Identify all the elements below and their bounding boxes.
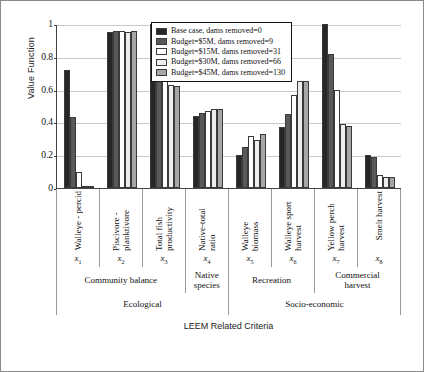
category-cell: Socio-economic (228, 293, 401, 315)
legend-label: Budget=$45M, dams removed=130 (171, 69, 285, 77)
criterion-symbol: x5 (247, 253, 254, 265)
bar (131, 31, 137, 188)
figure-panel: Value Function 00.20.40.60.81 Base case,… (0, 0, 424, 372)
bar (346, 126, 352, 188)
bar-group (315, 25, 358, 188)
legend-swatch (156, 69, 167, 76)
bar-group (57, 25, 100, 188)
legend-item: Budget=$15M, dams removed=31 (156, 47, 285, 57)
criterion-label: Yellow perch harvest (326, 191, 346, 251)
symbol-cell: x1 (56, 251, 99, 267)
legend-label: Base case, dams removed=0 (171, 27, 262, 35)
legend-label: Budget=$15M, dams removed=31 (171, 48, 281, 56)
criterion-label: Walleye biomass (240, 191, 260, 251)
symbol-cell: x6 (271, 251, 314, 267)
bar (88, 186, 94, 188)
bar (303, 81, 309, 188)
criterion-label: Total fish productivity (154, 191, 174, 251)
criterion-cell: Smelt harvest (357, 189, 401, 251)
criterion-cell: Yellow perch harvest (314, 189, 357, 251)
legend-swatch (156, 48, 167, 55)
bar (389, 177, 395, 188)
legend-label: Budget=$30M, dams removed=66 (171, 58, 281, 66)
x-axis-title: LEEM Related Criteria (184, 321, 274, 331)
criterion-label-row: Walleye - percidPiscivore - planktivoreT… (56, 189, 401, 251)
criterion-symbol: x6 (290, 253, 297, 265)
criterion-label: Smelt harvest (374, 191, 384, 240)
legend-swatch (156, 28, 167, 35)
bar-group (358, 25, 401, 188)
subcategory-cell: Recreation (228, 267, 314, 293)
axis-title-cell: LEEM Related Criteria (56, 315, 401, 337)
category-label: Ecological (123, 299, 161, 309)
criterion-cell: Walleye - percid (56, 189, 99, 251)
criterion-symbol: x8 (376, 253, 383, 265)
symbol-cell: x4 (185, 251, 228, 267)
symbol-cell: x2 (99, 251, 142, 267)
criterion-symbol: x7 (333, 253, 340, 265)
x-axis-band: Walleye - percidPiscivore - planktivoreT… (56, 189, 401, 337)
symbol-cell: x8 (357, 251, 401, 267)
criterion-symbol-row: x1x2x3x4x5x6x7x8 (56, 251, 401, 267)
y-tick-label: 0.2 (41, 151, 53, 161)
criterion-cell: Native-total ratio (185, 189, 228, 251)
criterion-symbol: x1 (75, 253, 82, 265)
subcategory-row: Community balanceNative speciesRecreatio… (56, 267, 401, 293)
criterion-label: Native-total ratio (197, 191, 217, 251)
y-tick-label: 0 (48, 184, 53, 194)
legend-item: Base case, dams removed=0 (156, 26, 285, 36)
symbol-cell: x5 (228, 251, 271, 267)
subcategory-label: Native species (194, 270, 220, 290)
criterion-label: Piscivore - planktivore (111, 191, 131, 251)
legend-item: Budget=$45M, dams removed=130 (156, 68, 285, 78)
y-axis-title: Value Function (26, 0, 36, 138)
legend-item: Budget=$5M, dams removed=9 (156, 36, 285, 46)
subcategory-cell: Commercial harvest (314, 267, 401, 293)
criterion-symbol: x3 (161, 253, 168, 265)
criterion-cell: Piscivore - planktivore (99, 189, 142, 251)
bar (260, 134, 266, 188)
criterion-symbol: x4 (204, 253, 211, 265)
criterion-label: Walleye sport harvest (283, 191, 303, 251)
y-tick-label: 1 (48, 20, 53, 30)
criterion-cell: Total fish productivity (142, 189, 185, 251)
legend-item: Budget=$30M, dams removed=66 (156, 57, 285, 67)
symbol-cell: x7 (314, 251, 357, 267)
category-label: Socio-economic (285, 299, 343, 309)
bar (174, 86, 180, 188)
criterion-cell: Walleye biomass (228, 189, 271, 251)
category-row: EcologicalSocio-economic (56, 293, 401, 315)
subcategory-label: Community balance (84, 275, 157, 285)
category-cell: Ecological (56, 293, 228, 315)
y-tick-label: 0.4 (41, 119, 53, 129)
subcategory-label: Commercial harvest (335, 270, 380, 290)
criterion-cell: Walleye sport harvest (271, 189, 314, 251)
bar (217, 109, 223, 188)
bar-group (100, 25, 143, 188)
subcategory-cell: Native species (185, 267, 229, 293)
legend-swatch (156, 38, 167, 45)
criterion-label: Walleye - percid (73, 191, 83, 250)
subcategory-cell: Community balance (56, 267, 185, 293)
legend: Base case, dams removed=0Budget=$5M, dam… (151, 22, 292, 82)
y-tick-label: 0.8 (41, 53, 53, 63)
subcategory-label: Recreation (252, 275, 291, 285)
y-tick-label: 0.6 (41, 86, 53, 96)
legend-swatch (156, 59, 167, 66)
axis-title-row: LEEM Related Criteria (56, 315, 401, 337)
criterion-symbol: x2 (118, 253, 125, 265)
legend-label: Budget=$5M, dams removed=9 (171, 38, 273, 46)
symbol-cell: x3 (142, 251, 185, 267)
